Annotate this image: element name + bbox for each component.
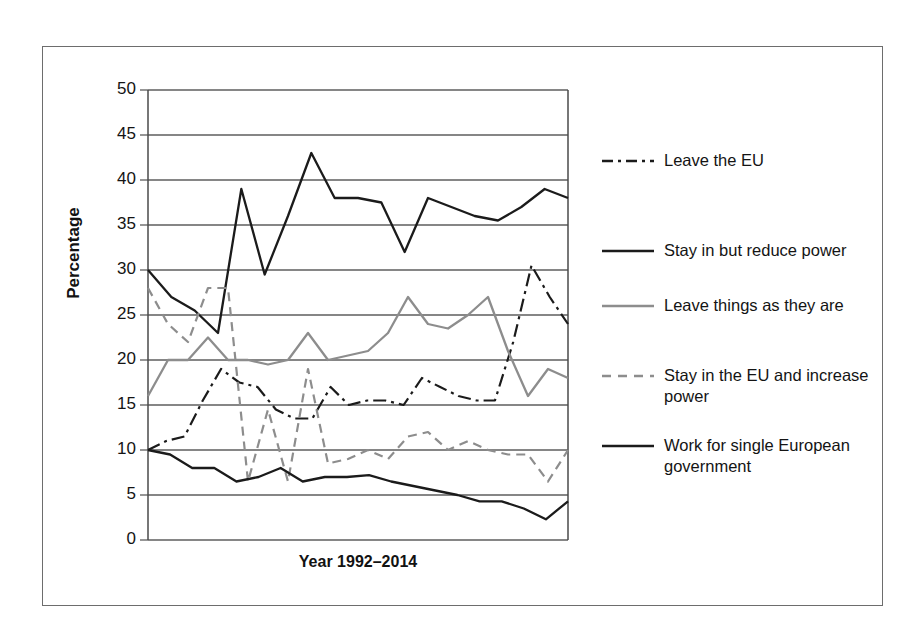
line-chart-plot <box>0 0 923 642</box>
legend-swatch-icon <box>600 295 656 313</box>
series-line-2 <box>148 297 568 396</box>
legend-swatch-icon <box>600 365 656 383</box>
series-line-4 <box>148 450 568 519</box>
legend-item[interactable]: Work for single European government <box>600 435 879 477</box>
legend-item[interactable]: Leave things as they are <box>600 295 844 316</box>
gridlines <box>140 90 568 540</box>
data-series-group <box>148 153 568 519</box>
legend-item[interactable]: Stay in but reduce power <box>600 240 847 261</box>
legend-swatch-icon <box>600 435 656 453</box>
legend-swatch-icon <box>600 150 656 168</box>
figure-container: Percentage Year 1992–2014 05101520253035… <box>0 0 923 642</box>
legend-item[interactable]: Leave the EU <box>600 150 764 171</box>
legend-item[interactable]: Stay in the EU and increase power <box>600 365 879 407</box>
legend-label: Leave the EU <box>664 150 764 171</box>
series-line-0 <box>148 266 568 451</box>
legend-label: Stay in the EU and increase power <box>664 365 879 407</box>
legend-label: Leave things as they are <box>664 295 844 316</box>
legend-label: Work for single European government <box>664 435 879 477</box>
legend-label: Stay in but reduce power <box>664 240 847 261</box>
legend-swatch-icon <box>600 240 656 258</box>
